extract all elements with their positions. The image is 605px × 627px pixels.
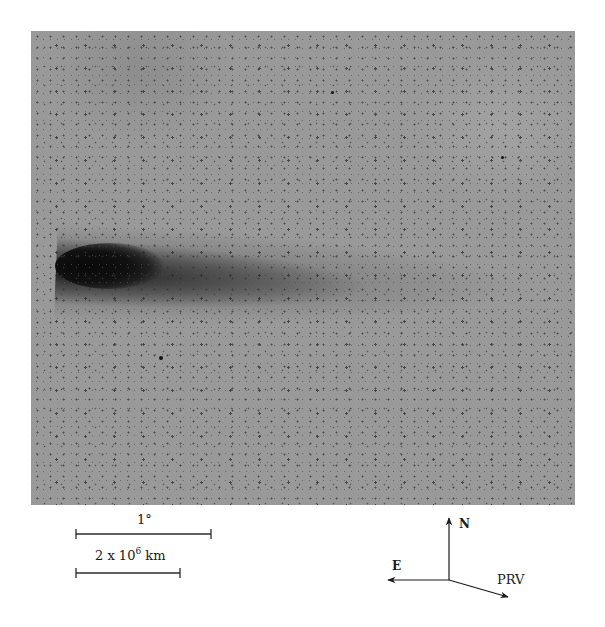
scale-label-km-exponent: 6 [135, 546, 141, 556]
annotations-layer [0, 0, 605, 627]
scale-label-km: 2 x 106 km [95, 549, 166, 562]
compass-arrows [388, 518, 508, 597]
scale-label-degree: 1° [137, 513, 152, 526]
scale-label-km-base: 2 x 10 [95, 548, 135, 563]
compass-label-east: E [392, 560, 401, 572]
compass-label-prv: PRV [497, 573, 524, 586]
scale-label-km-unit: km [145, 548, 165, 563]
compass-label-north: N [459, 518, 470, 530]
scale-bar-degree [76, 529, 211, 539]
scale-bar-km [76, 568, 180, 578]
